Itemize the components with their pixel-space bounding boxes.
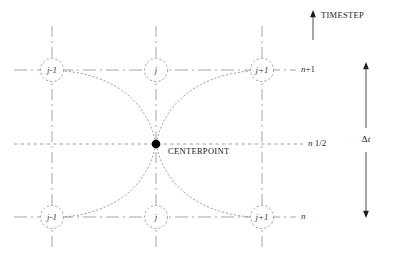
timestep-label: TIMESTEP xyxy=(321,10,364,20)
curve-center-to-bottom-left xyxy=(64,144,156,217)
row-label-n-plus-1: n+1 xyxy=(301,64,315,74)
row-label-n-var: n xyxy=(301,211,306,221)
node-top-center-label: j xyxy=(154,65,158,75)
timestep-annotation: TIMESTEP xyxy=(310,10,364,40)
curve-center-to-top-left xyxy=(64,71,156,144)
centerpoint-group: CENTERPOINT xyxy=(152,140,230,156)
node-top-left-label: j-1 xyxy=(46,65,57,75)
row-label-n-plus-1-sup: +1 xyxy=(306,64,316,74)
node-bottom-center-label: j xyxy=(154,212,158,222)
row-label-n-half-sup: 1/2 xyxy=(313,138,327,148)
curve-center-to-top-right xyxy=(156,71,250,144)
centerpoint-dot xyxy=(152,140,161,149)
node-bottom-left-label: j-1 xyxy=(46,212,57,222)
delta-t-variable: t xyxy=(368,134,371,144)
centerpoint-label: CENTERPOINT xyxy=(168,146,230,156)
up-arrow-icon xyxy=(310,10,316,17)
node-top-right-label: j+1 xyxy=(254,65,268,75)
delta-t-label: Δt xyxy=(362,134,371,144)
double-arrow-head-down-icon xyxy=(363,211,369,218)
diagram-canvas: j-1 j j+1 j-1 j j+1 CENTERPOINT n+1 n 1/ xyxy=(0,0,397,257)
delta-t-annotation: Δt xyxy=(362,62,371,218)
node-bottom-right-label: j+1 xyxy=(254,212,268,222)
row-label-n: n xyxy=(301,211,306,221)
row-labels: n+1 n 1/2 n xyxy=(301,64,326,221)
row-label-n-half: n 1/2 xyxy=(308,138,326,148)
